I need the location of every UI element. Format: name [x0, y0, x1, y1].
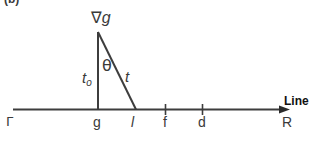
panel-label: (b) [4, 0, 19, 5]
hypotenuse-label: t [125, 69, 129, 84]
gradient-label: ∇g [91, 9, 111, 26]
point-label-gamma: Γ [6, 115, 13, 128]
point-label-f: f [163, 115, 167, 129]
point-label-r: R [282, 115, 292, 129]
point-label-l: l [131, 115, 134, 129]
angle-label: θ [102, 58, 112, 74]
nabla-icon: ∇ [91, 8, 102, 27]
point-label-g: g [93, 115, 101, 129]
axis-name-label: Line [284, 95, 309, 107]
diagram-graphics [0, 0, 311, 146]
vertical-side-subscript: o [86, 77, 92, 88]
point-label-d: d [198, 115, 206, 129]
diagram-canvas: (b) ∇g to θ t Γ g l f d R Line [0, 0, 311, 146]
gradient-variable: g [102, 9, 111, 26]
vertical-side-label: to [82, 70, 92, 88]
